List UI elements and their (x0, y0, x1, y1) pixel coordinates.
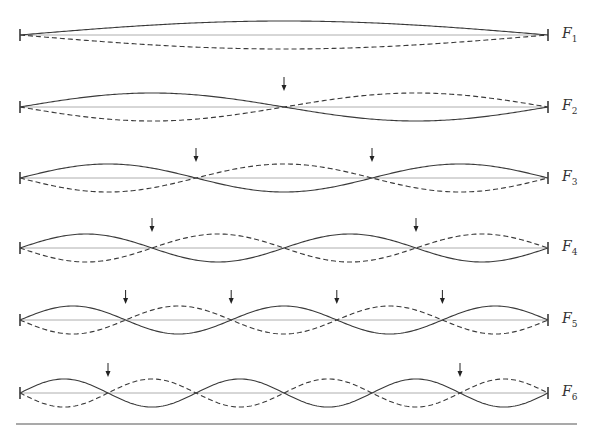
node-arrowhead-icon (194, 156, 199, 162)
wave-dashed (20, 35, 548, 49)
harmonic-label-subscript: 3 (572, 177, 578, 187)
harmonics-diagram (0, 0, 592, 433)
node-arrowhead-icon (123, 298, 128, 304)
wave-solid (20, 21, 548, 35)
harmonic-label-letter: F (562, 310, 572, 326)
harmonic-label-subscript: 4 (572, 247, 578, 257)
harmonic-label-subscript: 5 (572, 319, 578, 329)
node-arrowhead-icon (414, 226, 419, 232)
node-arrowhead-icon (229, 298, 234, 304)
harmonic-label-f3: F3 (562, 168, 577, 187)
harmonic-label-f2: F2 (562, 97, 577, 116)
harmonic-label-f6: F6 (562, 383, 577, 402)
harmonic-label-subscript: 6 (572, 392, 578, 402)
node-arrowhead-icon (458, 371, 463, 377)
node-arrowhead-icon (370, 156, 375, 162)
node-arrowhead-icon (150, 226, 155, 232)
harmonic-label-subscript: 2 (572, 106, 578, 116)
harmonic-label-f4: F4 (562, 238, 577, 257)
harmonic-label-f5: F5 (562, 310, 577, 329)
harmonic-label-letter: F (562, 383, 572, 399)
node-arrowhead-icon (106, 371, 111, 377)
harmonic-label-letter: F (562, 25, 572, 41)
harmonic-label-letter: F (562, 238, 572, 254)
node-arrowhead-icon (334, 298, 339, 304)
harmonic-label-subscript: 1 (572, 34, 578, 44)
node-arrowhead-icon (440, 298, 445, 304)
harmonic-label-f1: F1 (562, 25, 577, 44)
harmonic-label-letter: F (562, 97, 572, 113)
harmonic-label-letter: F (562, 168, 572, 184)
node-arrowhead-icon (282, 85, 287, 91)
